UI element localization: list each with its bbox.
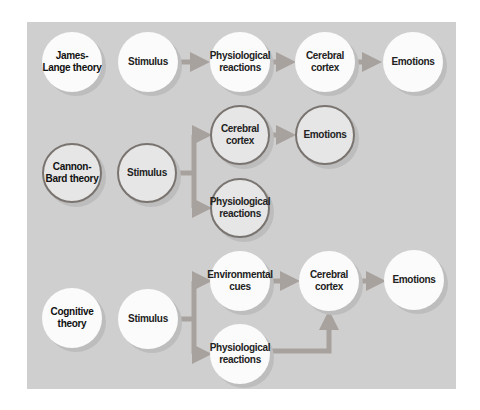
cog-stimulus-node: Stimulus — [118, 289, 178, 349]
arrow-cog-physio-cortex — [272, 320, 329, 351]
node-label: Physiological reactions — [210, 50, 271, 74]
node-label: Cannon-Bard theory — [44, 161, 100, 185]
cog-environmental-node: Environmental cues — [210, 251, 270, 311]
jl-physiological-node: Physiological reactions — [210, 32, 270, 92]
cannon-bard-theory-node: Cannon-Bard theory — [42, 143, 102, 203]
jl-stimulus-node: Stimulus — [118, 32, 178, 92]
jl-emotions-node: Emotions — [383, 32, 443, 92]
node-label: James-Lange theory — [42, 50, 102, 74]
node-label: Cognitive theory — [42, 306, 102, 330]
node-label: Stimulus — [127, 167, 167, 179]
node-label: Emotions — [303, 129, 346, 141]
node-label: Stimulus — [128, 313, 168, 325]
node-label: Environmental cues — [207, 269, 273, 293]
jl-cortex-node: Cerebral cortex — [295, 32, 355, 92]
cognitive-theory-node: Cognitive theory — [42, 288, 102, 348]
node-label: Physiological reactions — [210, 342, 271, 366]
node-label: Emotions — [392, 274, 435, 286]
cb-emotions-node: Emotions — [295, 105, 355, 165]
cb-physiological-node: Physiological reactions — [210, 178, 270, 238]
cog-emotions-node: Emotions — [384, 250, 444, 310]
node-label: Emotions — [391, 56, 434, 68]
node-label: Stimulus — [128, 56, 168, 68]
cb-stimulus-node: Stimulus — [117, 143, 177, 203]
node-label: Cerebral cortex — [212, 123, 268, 147]
james-lange-theory-node: James-Lange theory — [42, 32, 102, 92]
cog-cortex-node: Cerebral cortex — [299, 251, 359, 311]
cog-physiological-node: Physiological reactions — [210, 324, 270, 384]
node-label: Cerebral cortex — [299, 269, 359, 293]
node-label: Cerebral cortex — [295, 50, 355, 74]
node-label: Physiological reactions — [210, 196, 271, 220]
cb-cortex-node: Cerebral cortex — [210, 105, 270, 165]
